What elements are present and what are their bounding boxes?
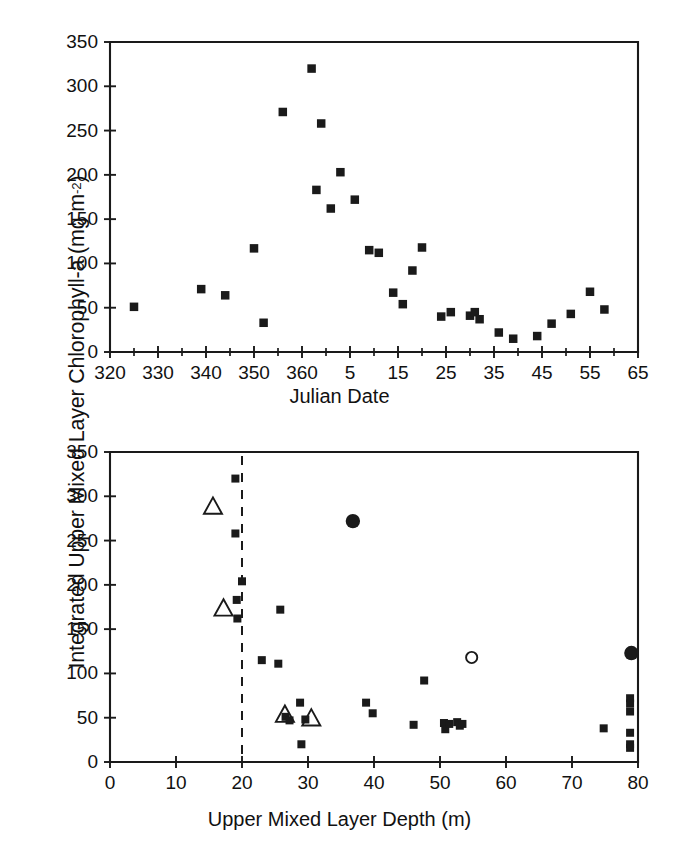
data-point-square bbox=[533, 332, 542, 341]
x-tick-label: 70 bbox=[561, 772, 582, 794]
x-tick-label: 340 bbox=[190, 362, 222, 384]
scatter-plot-mixed-layer-depth bbox=[0, 430, 679, 860]
data-point-open-triangle bbox=[204, 497, 222, 513]
data-point-square bbox=[420, 677, 428, 685]
y-tick-label: 0 bbox=[87, 341, 98, 363]
data-point-square bbox=[317, 119, 326, 128]
y-tick-label: 350 bbox=[66, 31, 98, 53]
x-tick-label: 40 bbox=[363, 772, 384, 794]
data-point-square bbox=[233, 615, 241, 623]
x-tick-label: 320 bbox=[94, 362, 126, 384]
x-tick-label: 360 bbox=[286, 362, 318, 384]
x-axis-title-bottom: Upper Mixed Layer Depth (m) bbox=[0, 808, 679, 831]
data-point-square bbox=[336, 168, 345, 177]
data-point-square bbox=[258, 656, 266, 664]
data-point-square bbox=[375, 249, 384, 257]
chart-panel-top bbox=[0, 20, 679, 420]
y-tick-label: 350 bbox=[66, 441, 98, 463]
data-point-square bbox=[626, 744, 634, 752]
data-point-square bbox=[626, 700, 634, 708]
x-tick-label: 10 bbox=[165, 772, 186, 794]
y-tick-label: 50 bbox=[77, 707, 98, 729]
data-point-square bbox=[567, 310, 576, 319]
data-point-square bbox=[130, 303, 139, 312]
y-tick-label: 150 bbox=[66, 618, 98, 640]
y-tick-label: 50 bbox=[77, 297, 98, 319]
x-tick-label: 350 bbox=[238, 362, 270, 384]
x-tick-label: 50 bbox=[429, 772, 450, 794]
data-point-square bbox=[250, 244, 259, 253]
x-tick-label: 0 bbox=[105, 772, 116, 794]
chart-panel-bottom bbox=[0, 430, 679, 860]
scatter-plot-julian-date bbox=[0, 20, 679, 420]
y-tick-label: 0 bbox=[87, 751, 98, 773]
data-point-square bbox=[600, 305, 609, 314]
data-point-square bbox=[600, 724, 608, 732]
y-tick-label: 100 bbox=[66, 252, 98, 274]
data-point-square bbox=[399, 300, 408, 309]
data-point-square bbox=[274, 660, 282, 668]
data-point-square bbox=[447, 308, 456, 317]
y-tick-label: 300 bbox=[66, 485, 98, 507]
x-tick-label: 20 bbox=[231, 772, 252, 794]
data-point-square bbox=[231, 529, 239, 537]
data-point-square bbox=[418, 243, 427, 252]
data-point-square bbox=[458, 720, 466, 728]
data-point-square bbox=[586, 288, 595, 297]
x-tick-label: 15 bbox=[387, 362, 408, 384]
data-point-square bbox=[327, 204, 336, 213]
x-tick-label: 5 bbox=[345, 362, 356, 384]
data-point-square bbox=[389, 288, 398, 297]
data-point-square bbox=[408, 266, 417, 275]
x-tick-label: 80 bbox=[627, 772, 648, 794]
y-tick-label: 200 bbox=[66, 164, 98, 186]
y-tick-label: 100 bbox=[66, 662, 98, 684]
data-point-square bbox=[626, 729, 634, 737]
data-point-square bbox=[221, 291, 230, 300]
data-point-square bbox=[445, 720, 453, 728]
data-point-filled-circle bbox=[346, 514, 360, 528]
data-point-square bbox=[362, 699, 370, 707]
x-tick-label: 65 bbox=[627, 362, 648, 384]
data-point-square bbox=[296, 699, 304, 707]
y-tick-label: 200 bbox=[66, 574, 98, 596]
data-point-square bbox=[279, 108, 288, 117]
data-point-square bbox=[307, 64, 316, 73]
data-point-square bbox=[495, 328, 504, 337]
data-point-filled-circle bbox=[624, 646, 638, 660]
x-tick-label: 330 bbox=[142, 362, 174, 384]
data-point-square bbox=[238, 577, 246, 585]
data-point-square bbox=[365, 246, 374, 255]
x-axis-title-top: Julian Date bbox=[0, 385, 679, 408]
data-point-square bbox=[197, 285, 206, 294]
data-point-square bbox=[276, 606, 284, 614]
x-tick-label: 35 bbox=[483, 362, 504, 384]
x-tick-label: 30 bbox=[297, 772, 318, 794]
data-point-square bbox=[547, 319, 556, 328]
data-point-open-circle bbox=[466, 652, 477, 663]
figure-root: Integrated Upper Mixed Layer Chlorophyll… bbox=[0, 0, 679, 860]
data-point-square bbox=[259, 319, 268, 328]
data-point-square bbox=[351, 195, 360, 204]
data-point-square bbox=[297, 740, 305, 748]
data-point-square bbox=[437, 312, 446, 321]
data-point-square bbox=[410, 721, 418, 729]
y-tick-label: 250 bbox=[66, 120, 98, 142]
data-point-square bbox=[312, 186, 321, 195]
data-point-square bbox=[369, 709, 377, 717]
data-point-square bbox=[509, 334, 518, 343]
x-tick-label: 45 bbox=[531, 362, 552, 384]
data-point-square bbox=[231, 475, 239, 483]
x-tick-label: 55 bbox=[579, 362, 600, 384]
x-tick-label: 60 bbox=[495, 772, 516, 794]
data-point-square bbox=[626, 708, 634, 716]
y-tick-label: 250 bbox=[66, 530, 98, 552]
data-point-square bbox=[475, 315, 484, 324]
y-tick-label: 300 bbox=[66, 75, 98, 97]
x-tick-label: 25 bbox=[435, 362, 456, 384]
y-tick-label: 150 bbox=[66, 208, 98, 230]
data-point-square bbox=[233, 596, 241, 604]
data-point-open-triangle bbox=[214, 599, 232, 615]
